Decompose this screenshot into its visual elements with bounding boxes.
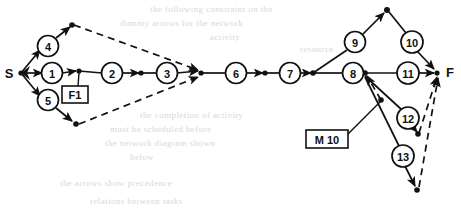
node-8-label: 8 [350, 68, 356, 80]
node-7[interactable]: 7 [280, 63, 301, 84]
node-13[interactable]: 13 [392, 145, 414, 167]
node-7-label: 7 [287, 68, 293, 80]
edge-12-endpoint-to-finish [419, 77, 437, 133]
leader-line-f1 [78, 73, 79, 86]
node-2-label: 2 [109, 68, 115, 80]
junction-dot-start [18, 70, 23, 75]
edge-junction-to-12 [365, 76, 402, 110]
bleed-text-line: the network diagram shown [105, 138, 215, 148]
junction-dot-m10 [378, 97, 384, 103]
node-1[interactable]: 1 [42, 63, 63, 84]
node-11-label: 11 [402, 68, 414, 80]
node-3-label: 3 [164, 68, 170, 80]
edge-apex-to-10 [389, 12, 406, 33]
bleed-text-line: the following constraint on the [150, 4, 273, 14]
node-5-label: 5 [45, 95, 51, 107]
node-11[interactable]: 11 [397, 62, 419, 84]
node-9-label: 9 [352, 37, 358, 49]
node-3[interactable]: 3 [157, 63, 178, 84]
node-4-label: 4 [45, 41, 52, 53]
edge-4-to-top-junction [56, 27, 70, 38]
label-box-f1[interactable]: F1 [62, 86, 88, 103]
label-box-m10[interactable]: M 10 [306, 130, 348, 148]
bleed-text-line: activity [210, 32, 240, 42]
edge-s-to-4 [21, 50, 40, 73]
junction-dot-top [69, 22, 75, 28]
bleed-text-line: the arrows show precedence [60, 178, 172, 188]
terminal-finish-label: F [446, 65, 454, 80]
junction-dot-bottom [73, 121, 79, 127]
junction-dot-before-8 [310, 70, 316, 76]
node-4[interactable]: 4 [38, 36, 59, 57]
edge-5-to-bottom-junction [56, 108, 72, 121]
terminal-start-label: S [5, 66, 14, 81]
bleed-text-line: the completion of activity [140, 110, 243, 120]
node-2[interactable]: 2 [102, 63, 123, 84]
edge-13-to-bottom-endpoint [405, 166, 415, 186]
node-12-label: 12 [402, 113, 414, 125]
nodes-layer: 1 2 3 4 5 6 7 [38, 31, 424, 167]
junction-dot-apex [384, 7, 390, 13]
label-box-f1-text: F1 [69, 89, 82, 101]
node-5[interactable]: 5 [38, 90, 59, 111]
junction-dot-finish [434, 70, 439, 75]
edge-10-to-finish [417, 51, 434, 69]
edge-9-to-apex [362, 13, 384, 35]
edge-1-to-f1-junction [62, 71, 76, 73]
bleed-text-line: below [130, 152, 154, 162]
node-10-label: 10 [406, 37, 418, 49]
node-6[interactable]: 6 [226, 63, 247, 84]
node-8[interactable]: 8 [343, 63, 364, 84]
junction-dot-merge [198, 70, 203, 75]
edge-s-to-5 [21, 73, 40, 96]
node-10[interactable]: 10 [401, 31, 423, 53]
junction-dot-after-2 [138, 70, 143, 75]
bleed-text-line: dummy arrows for the network [120, 18, 243, 28]
edge-top-junction-to-merge [74, 25, 198, 70]
bleed-text-line: resource [300, 44, 334, 54]
node-13-label: 13 [397, 151, 409, 163]
diagram-canvas: 1 2 3 4 5 6 7 [0, 0, 461, 216]
junction-dot-f1 [76, 68, 81, 73]
label-box-m10-text: M 10 [315, 134, 339, 146]
junction-dot-12-end [415, 131, 421, 137]
bleed-text-line: must be scheduled before [110, 124, 211, 134]
bleed-text-line: relations between tasks [90, 196, 183, 206]
node-1-label: 1 [49, 68, 55, 80]
node-9[interactable]: 9 [345, 32, 366, 53]
junction-dot-bottom-end [414, 187, 420, 193]
edge-3-to-merge [177, 71, 198, 73]
node-12[interactable]: 12 [397, 107, 419, 129]
edge-f1-junction-to-2 [79, 71, 102, 73]
junction-dot-after-6 [262, 70, 267, 75]
node-6-label: 6 [233, 68, 239, 80]
edge-bottom-endpoint-to-finish [419, 78, 438, 187]
leader-line-m10 [348, 102, 380, 134]
